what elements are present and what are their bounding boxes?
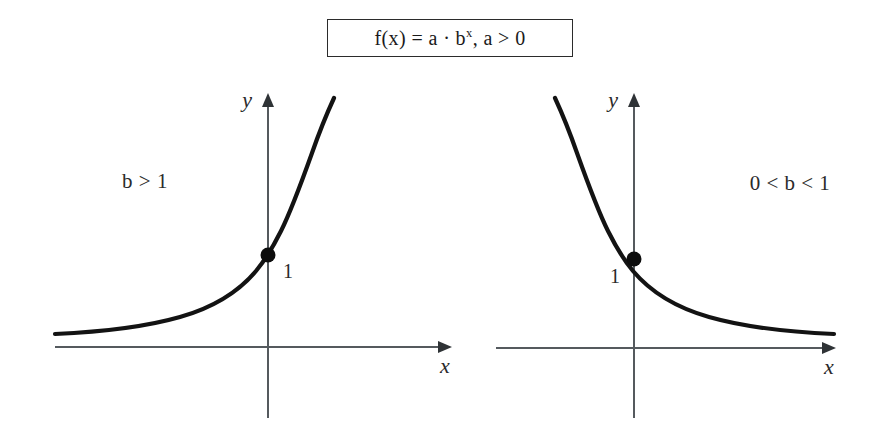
x-axis-label: x bbox=[823, 354, 834, 379]
decay-curve bbox=[555, 98, 834, 334]
chart-exponential-decay: y x 1 0 < b < 1 bbox=[470, 85, 882, 430]
figure-canvas: f(x) = a · bx, a > 0 y x 1 b > 1 bbox=[0, 0, 882, 445]
condition-label-growth: b > 1 bbox=[122, 169, 168, 193]
decay-svg: y x 1 0 < b < 1 bbox=[470, 85, 882, 430]
chart-exponential-growth: y x 1 b > 1 bbox=[40, 85, 460, 430]
formula-box: f(x) = a · bx, a > 0 bbox=[327, 19, 573, 57]
growth-curve bbox=[55, 98, 334, 334]
y-intercept-dot bbox=[261, 248, 276, 263]
formula-suffix: , a > 0 bbox=[473, 27, 526, 49]
x-axis-label: x bbox=[439, 353, 450, 378]
growth-svg: y x 1 b > 1 bbox=[40, 85, 460, 430]
y-intercept-dot bbox=[627, 252, 642, 267]
y-axis-label: y bbox=[606, 87, 618, 112]
y-axis-label: y bbox=[240, 87, 252, 112]
x-axis-arrowhead bbox=[438, 341, 452, 353]
formula-prefix: f(x) = a · b bbox=[374, 27, 466, 49]
formula-text: f(x) = a · bx, a > 0 bbox=[374, 27, 525, 50]
y-intercept-label: 1 bbox=[283, 260, 293, 282]
y-axis-arrowhead bbox=[628, 93, 640, 107]
condition-label-decay: 0 < b < 1 bbox=[750, 171, 831, 195]
y-axis-arrowhead bbox=[262, 93, 274, 107]
formula-exponent: x bbox=[466, 26, 473, 40]
x-axis-arrowhead bbox=[822, 342, 836, 354]
y-intercept-label: 1 bbox=[610, 265, 620, 287]
